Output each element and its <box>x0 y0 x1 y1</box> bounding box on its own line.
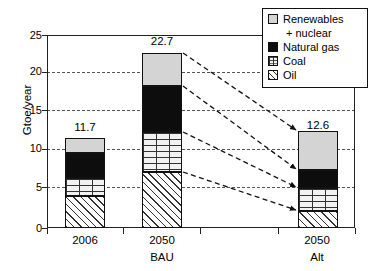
segment-gas-2006 <box>65 153 105 178</box>
legend-swatch-coal-icon <box>268 56 278 66</box>
y-tick-mark-10 <box>42 149 47 150</box>
chart-canvas: Gtoe/year 25 20 15 10 5 0 2006 2050 2050… <box>0 0 375 271</box>
x-group-label-bau: BAU <box>127 251 197 263</box>
legend-swatch-oil-icon <box>268 70 278 80</box>
y-tick-mark-5 <box>42 187 47 188</box>
y-tick-label-0: 0 <box>18 223 42 234</box>
bar-2050-bau[interactable] <box>142 53 182 228</box>
segment-oil-2050-alt <box>298 211 338 228</box>
legend-item-coal[interactable]: Coal <box>268 55 363 68</box>
legend-label-renewables-cont: + nuclear <box>286 27 332 39</box>
x-tick-label-2006: 2006 <box>50 234 120 246</box>
legend-label-gas: Natural gas <box>283 41 339 53</box>
y-tick-mark-20 <box>42 72 47 73</box>
segment-oil-2006 <box>65 196 105 228</box>
chart-legend: Renewables + nuclear Natural gas Coal Oi… <box>262 8 368 88</box>
segment-coal-2050-alt <box>298 188 338 211</box>
x-tick-label-2050-alt: 2050 <box>282 234 352 246</box>
legend-item-renewables[interactable]: Renewables <box>268 13 363 26</box>
y-tick-label-15: 15 <box>18 105 42 116</box>
segment-oil-2050-bau <box>142 172 182 228</box>
legend-swatch-renewables-icon <box>268 14 278 24</box>
x-tick-mark-left <box>47 228 48 234</box>
segment-gas-2050-alt <box>298 170 338 188</box>
x-tick-mark-1 <box>123 228 124 234</box>
x-tick-mark-2 <box>200 228 201 234</box>
x-group-label-alt: Alt <box>282 251 352 263</box>
bar-2006[interactable] <box>65 138 105 228</box>
legend-item-gas[interactable]: Natural gas <box>268 41 363 54</box>
legend-label-coal: Coal <box>283 55 306 67</box>
segment-coal-2006 <box>65 178 105 196</box>
legend-item-oil[interactable]: Oil <box>268 69 363 82</box>
x-tick-mark-3 <box>278 228 279 234</box>
legend-swatch-gas-icon <box>268 42 278 52</box>
y-tick-label-10: 10 <box>18 143 42 154</box>
legend-item-renewables-cont: + nuclear <box>286 27 363 40</box>
segment-gas-2050-bau <box>142 86 182 132</box>
y-tick-label-20: 20 <box>18 66 42 77</box>
bar-2050-alt[interactable] <box>298 131 338 228</box>
y-tick-label-25: 25 <box>18 30 42 41</box>
x-tick-label-2050-bau: 2050 <box>127 234 197 246</box>
y-tick-mark-25 <box>42 35 47 36</box>
y-tick-mark-15 <box>42 110 47 111</box>
bar-total-2050-alt: 12.6 <box>278 119 358 131</box>
y-tick-label-5: 5 <box>18 182 42 193</box>
x-tick-mark-right <box>355 228 356 234</box>
segment-renewables-2006 <box>65 138 105 153</box>
legend-label-oil: Oil <box>283 69 296 81</box>
segment-renewables-2050-alt <box>298 131 338 170</box>
segment-renewables-2050-bau <box>142 53 182 86</box>
segment-coal-2050-bau <box>142 132 182 171</box>
bar-total-2050-bau: 22.7 <box>122 35 202 47</box>
bar-total-2006: 11.7 <box>45 121 125 133</box>
legend-label-renewables: Renewables <box>283 13 344 25</box>
